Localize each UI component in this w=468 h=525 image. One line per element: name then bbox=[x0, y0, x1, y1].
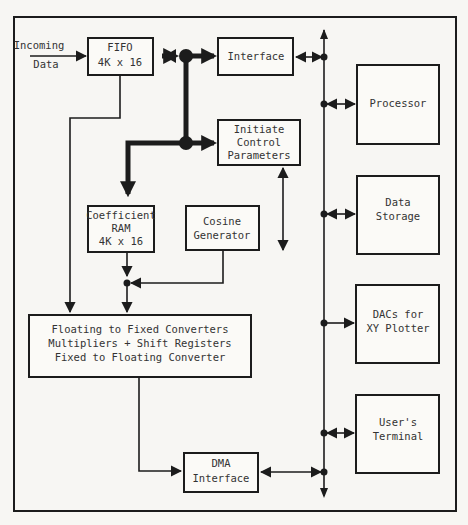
dacs-label-1: DACs for bbox=[373, 308, 424, 320]
users-terminal-block: User's Terminal bbox=[321, 395, 440, 473]
incoming-label-line2: Data bbox=[33, 58, 58, 70]
dacs-xy-plotter-block: DACs for XY Plotter bbox=[321, 285, 440, 363]
icp-label-3: Parameters bbox=[227, 149, 290, 161]
cosine-label-1: Cosine bbox=[203, 215, 241, 227]
converters-to-dma-line bbox=[139, 377, 181, 471]
fifo-label: FIFO bbox=[107, 41, 132, 53]
icp-label-2: Control bbox=[237, 136, 281, 148]
converters-label-1: Floating to Fixed Converters bbox=[51, 323, 228, 335]
cosine-label-2: Generator bbox=[194, 229, 251, 241]
data-storage-label-1: Data bbox=[385, 196, 410, 208]
dma-interface-block: DMA Interface bbox=[184, 453, 328, 492]
converters-label-2: Multipliers + Shift Registers bbox=[48, 337, 231, 349]
dacs-label-2: XY Plotter bbox=[366, 322, 429, 334]
system-bus bbox=[320, 29, 328, 498]
icp-label-1: Initiate bbox=[234, 123, 285, 135]
block-diagram: Incoming Data FIFO 4K x 16 Interface Ini… bbox=[0, 0, 468, 525]
interface-label: Interface bbox=[228, 50, 285, 62]
fifo-to-converters-line bbox=[70, 75, 120, 312]
data-storage-block: Data Storage bbox=[321, 176, 440, 254]
dma-label-1: DMA bbox=[212, 457, 232, 469]
cosine-generator-block: Cosine Generator bbox=[186, 206, 259, 250]
converters-label-3: Fixed to Floating Converter bbox=[55, 351, 226, 363]
terminal-label-2: Terminal bbox=[373, 430, 424, 442]
incoming-data-input: Incoming Data bbox=[14, 39, 86, 70]
coeff-cosine-junction bbox=[124, 250, 224, 312]
fifo-block: FIFO 4K x 16 bbox=[88, 38, 153, 75]
processor-block: Processor bbox=[321, 65, 440, 144]
incoming-label-line1: Incoming bbox=[14, 39, 65, 51]
terminal-label-1: User's bbox=[379, 416, 417, 428]
dma-label-2: Interface bbox=[193, 472, 250, 484]
interface-block: Interface bbox=[218, 38, 328, 75]
processor-label: Processor bbox=[370, 97, 427, 109]
converters-block: Floating to Fixed Converters Multipliers… bbox=[29, 315, 251, 377]
coeff-label-1: Coefficient bbox=[86, 209, 156, 221]
coeff-label-2: RAM bbox=[112, 222, 131, 234]
fifo-size-label: 4K x 16 bbox=[98, 56, 142, 68]
data-storage-label-2: Storage bbox=[376, 210, 420, 222]
coefficient-ram-block: Coefficient RAM 4K x 16 bbox=[86, 206, 156, 252]
coeff-label-3: 4K x 16 bbox=[99, 235, 143, 247]
